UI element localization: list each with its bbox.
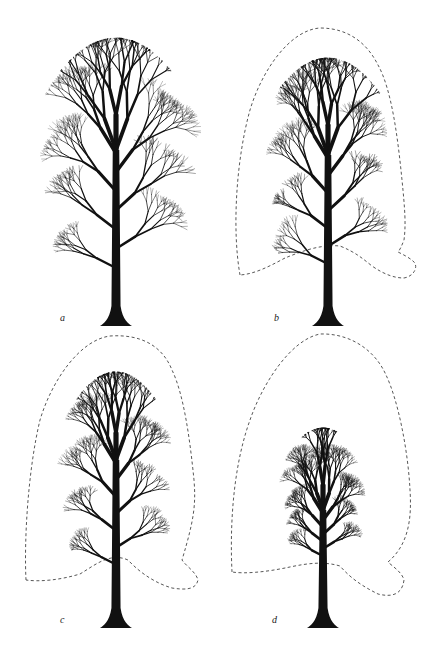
tree-panel-b bbox=[236, 28, 416, 326]
branches-a bbox=[41, 38, 201, 267]
tree-panel-d bbox=[231, 334, 410, 628]
tree-panel-a bbox=[41, 38, 201, 326]
panel-label-a: a bbox=[60, 312, 65, 323]
panel-label-d: d bbox=[272, 614, 277, 625]
tree-panel-c bbox=[26, 336, 198, 628]
trunk-d bbox=[307, 510, 339, 628]
panel-label-c: c bbox=[60, 614, 64, 625]
panel-label-b: b bbox=[274, 312, 279, 323]
